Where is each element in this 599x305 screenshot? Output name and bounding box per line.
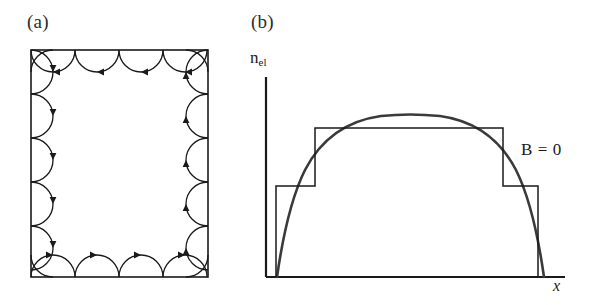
orbit-arrow [90,252,97,259]
y-axis-label-base: n [250,48,259,67]
orbit-arrow [97,69,104,76]
orbit-arc [119,255,163,277]
orbit-arc [186,226,208,270]
orbit-arrow [50,109,57,116]
orbit-arc [31,182,53,226]
density-curve-b-zero [277,115,544,278]
orbit-arcs-right [186,50,208,270]
orbit-arc [186,182,208,226]
orbit-arrow [50,197,57,204]
panel-a-graphic [31,50,208,277]
y-axis-label: nel [250,48,267,68]
y-axis-label-subscript: el [259,56,267,68]
figure-container: (a) (b) [0,0,599,305]
orbit-arrows-left [50,65,57,248]
orbit-arc [119,50,163,72]
orbit-arc [163,50,207,72]
curve-annotation-b-zero: B = 0 [521,140,562,160]
orbit-arcs-bottom [31,255,207,277]
orbit-arcs-corners [31,50,208,277]
orbit-arrow [183,248,190,255]
orbit-arrow [134,252,141,259]
orbit-arrows-right [183,72,190,255]
orbit-arrow [183,204,190,211]
panel-b-graphic [266,77,565,277]
orbit-arcs-left [31,50,53,270]
orbit-arc [186,94,208,138]
figure-graphics [0,0,599,305]
orbit-arc [163,255,207,277]
orbit-arcs-top [31,50,207,72]
orbit-arrow [183,160,190,167]
orbit-arrow [50,153,57,160]
density-staircase-profile [276,128,538,277]
orbit-arc [31,138,53,182]
x-axis-label: x [553,277,560,295]
orbit-arrow [141,69,148,76]
orbit-arc [75,255,119,277]
orbit-arc [75,50,119,72]
orbit-arrows-bottom [46,252,185,259]
orbit-arc [31,255,75,277]
orbit-arc [31,94,53,138]
orbit-arc [186,138,208,182]
orbit-arrows-top [53,69,192,76]
sample-boundary-rect [31,50,208,277]
orbit-arrow [183,116,190,123]
orbit-arrow [50,241,57,248]
orbit-arc [31,226,53,270]
